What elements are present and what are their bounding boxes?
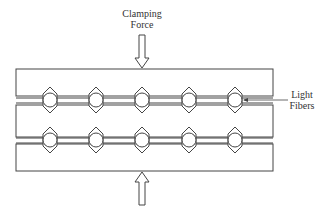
light-fibers-label: Light Fibers bbox=[282, 89, 322, 111]
fiber-clamp-diagram bbox=[0, 0, 324, 220]
clamping-force-label: Clamping Force bbox=[117, 8, 167, 30]
fiber-row-bottom bbox=[43, 127, 242, 153]
bottom-clamping-arrow-icon bbox=[135, 172, 149, 205]
top-clamping-arrow-icon bbox=[135, 35, 149, 68]
fiber-row-top bbox=[43, 87, 242, 113]
